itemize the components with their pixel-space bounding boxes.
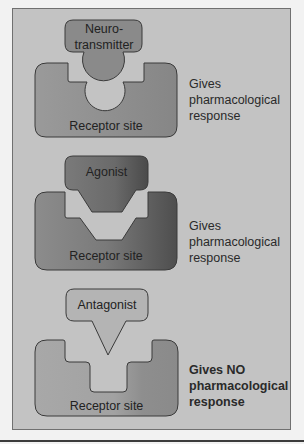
receptor-site-label-2: Receptor site (35, 248, 177, 264)
neurotransmitter-label-line1: Neuro- (65, 21, 143, 37)
neurotransmitter-label: Neuro- transmitter (65, 21, 143, 53)
neurotransmitter-label-line2: transmitter (65, 37, 143, 53)
response-text-1: Gives pharmacological response (189, 76, 280, 124)
receptor-site-label-3: Receptor site (35, 398, 178, 414)
response-text-3: Gives NO pharmacological response (189, 362, 288, 410)
receptor-site-label-1: Receptor site (35, 118, 177, 134)
response-text-2: Gives pharmacological response (189, 218, 280, 266)
bottom-rule (0, 440, 304, 442)
agonist-label: Agonist (65, 164, 148, 180)
antagonist-label: Antagonist (66, 297, 148, 313)
